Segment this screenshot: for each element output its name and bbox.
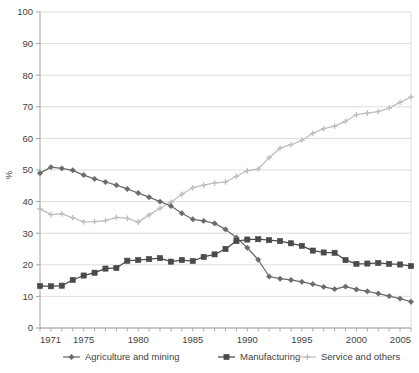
y-tick-label: 90	[22, 38, 33, 49]
data-point	[267, 238, 272, 243]
data-point	[201, 254, 206, 259]
data-point	[81, 273, 86, 278]
data-point	[343, 257, 348, 262]
data-point	[256, 237, 261, 242]
legend-label: Agriculture and mining	[85, 351, 180, 362]
data-point	[157, 256, 162, 261]
data-point	[299, 243, 304, 248]
data-point	[70, 277, 75, 282]
chart-container: 0102030405060708090100 19711975198019851…	[0, 0, 419, 373]
y-tick-label: 10	[22, 291, 33, 302]
legend-label: Manufacturing	[240, 351, 300, 362]
data-point	[59, 283, 64, 288]
x-tick-label: 2000	[346, 334, 367, 345]
x-tick-label: 1975	[73, 334, 94, 345]
legend-label: Service and others	[321, 351, 400, 362]
data-point	[387, 261, 392, 266]
y-tick-label: 30	[22, 228, 33, 239]
data-point	[397, 262, 402, 267]
y-tick-label: 0	[28, 322, 33, 333]
data-point	[92, 270, 97, 275]
x-tick-label: 1971	[40, 334, 61, 345]
data-point	[190, 258, 195, 263]
data-point	[114, 265, 119, 270]
y-axis-label: %	[3, 170, 14, 179]
y-axis-label-text: %	[3, 170, 14, 179]
data-point	[212, 252, 217, 257]
x-tick-label: 1980	[128, 334, 149, 345]
data-point	[288, 241, 293, 246]
y-tick-label: 80	[22, 70, 33, 81]
data-point	[365, 261, 370, 266]
data-point	[103, 266, 108, 271]
line-chart: 0102030405060708090100 19711975198019851…	[0, 0, 419, 373]
data-point	[354, 261, 359, 266]
y-tick-label: 70	[22, 101, 33, 112]
y-tick-label: 40	[22, 196, 33, 207]
data-point	[332, 250, 337, 255]
data-point	[147, 257, 152, 262]
x-tick-label: 1995	[291, 334, 312, 345]
data-point	[376, 260, 381, 265]
data-point	[125, 258, 130, 263]
y-tick-label: 50	[22, 164, 33, 175]
data-point	[223, 246, 228, 251]
data-point	[245, 237, 250, 242]
data-point	[37, 283, 42, 288]
data-point	[168, 259, 173, 264]
y-tick-label: 60	[22, 133, 33, 144]
x-tick-label: 1990	[237, 334, 258, 345]
data-point	[277, 239, 282, 244]
data-point	[48, 284, 53, 289]
x-tick-label: 2005	[390, 334, 411, 345]
x-tick-label: 1985	[182, 334, 203, 345]
data-point	[224, 354, 229, 359]
data-point	[234, 239, 239, 244]
data-point	[136, 257, 141, 262]
data-point	[408, 263, 413, 268]
chart-background	[0, 0, 419, 373]
data-point	[321, 250, 326, 255]
y-tick-label: 100	[17, 6, 33, 17]
data-point	[310, 248, 315, 253]
y-tick-label: 20	[22, 259, 33, 270]
data-point	[179, 257, 184, 262]
